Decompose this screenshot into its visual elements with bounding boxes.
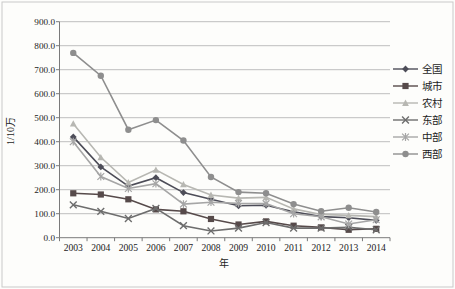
circle-marker-icon (98, 73, 104, 79)
y-axis-title: 1/10万 (5, 117, 16, 145)
x-axis-tick-label: 2012 (312, 242, 331, 253)
circle-marker-icon (125, 127, 131, 133)
mortality-line-chart-figure: 0.0100.0200.0300.0400.0500.0600.0700.080… (0, 0, 455, 289)
x-axis-tick-label: 2003 (64, 242, 83, 253)
x-axis-tick-label: 2009 (229, 242, 248, 253)
x-axis-tick-label: 2010 (256, 242, 275, 253)
x-axis-tick-label: 2008 (201, 242, 220, 253)
x-axis-tick-label: 2006 (146, 242, 165, 253)
square-marker-icon (98, 191, 104, 197)
legend-label: 全国 (422, 63, 442, 75)
circle-marker-icon (153, 117, 159, 123)
line-chart-canvas: 0.0100.0200.0300.0400.0500.0600.0700.080… (0, 0, 455, 289)
y-axis-tick-label: 300.0 (34, 161, 55, 171)
legend-label: 城市 (422, 80, 442, 92)
y-axis-tick-label: 500.0 (34, 113, 55, 123)
y-axis-tick-label: 400.0 (34, 137, 55, 147)
y-axis-tick-label: 600.0 (34, 89, 55, 99)
x-axis-tick-label: 2005 (119, 242, 138, 253)
legend-label: 中部 (422, 131, 442, 143)
legend-label: 东部 (422, 114, 442, 126)
square-marker-icon (70, 190, 76, 196)
x-axis-tick-label: 2007 (174, 242, 193, 253)
circle-marker-icon (208, 174, 214, 180)
circle-marker-icon (235, 189, 241, 195)
legend-label: 农村 (422, 97, 443, 109)
circle-marker-icon (318, 208, 324, 214)
circle-marker-icon (263, 190, 269, 196)
y-axis-tick-label: 900.0 (34, 17, 55, 27)
x-axis-tick-label: 2004 (91, 242, 110, 253)
square-marker-icon (208, 216, 214, 222)
y-axis-tick-label: 800.0 (34, 41, 55, 51)
circle-marker-icon (70, 50, 76, 56)
x-axis-tick-label: 2014 (367, 242, 386, 253)
x-axis-tick-label: 2011 (284, 242, 303, 253)
square-marker-icon (402, 83, 408, 89)
square-marker-icon (180, 208, 186, 214)
circle-marker-icon (345, 205, 351, 211)
circle-marker-icon (373, 209, 379, 215)
x-axis-tick-label: 2013 (339, 242, 358, 253)
y-axis-tick-label: 0.0 (44, 233, 56, 243)
x-axis-title: 年 (219, 257, 229, 269)
y-axis-tick-label: 700.0 (34, 65, 55, 75)
legend-label: 西部 (422, 148, 442, 160)
circle-marker-icon (402, 151, 408, 157)
y-axis-tick-label: 100.0 (34, 209, 55, 219)
circle-marker-icon (290, 201, 296, 207)
square-marker-icon (125, 196, 131, 202)
circle-marker-icon (180, 137, 186, 143)
y-axis-tick-label: 200.0 (34, 185, 55, 195)
